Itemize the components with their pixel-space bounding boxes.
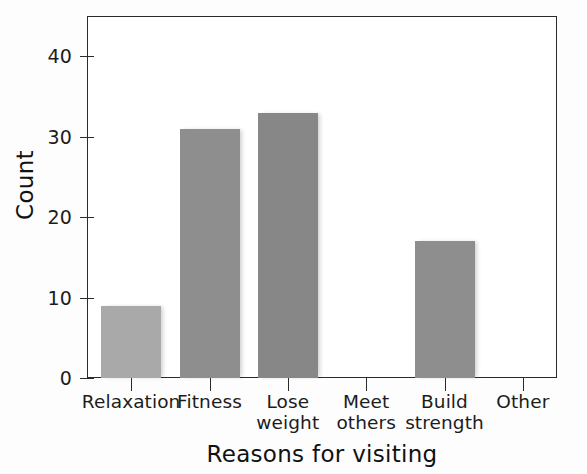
y-axis-tick — [80, 378, 94, 379]
chart-figure: Count 010203040 RelaxationFitnessLosewei… — [0, 0, 587, 474]
y-axis-tick-label: 20 — [28, 206, 72, 228]
x-axis-tick — [523, 378, 524, 391]
x-axis-tick — [131, 378, 132, 391]
y-axis-tick-label: 0 — [28, 367, 72, 389]
bar — [258, 113, 318, 378]
bar — [180, 129, 240, 378]
bar — [415, 241, 475, 378]
bar — [101, 306, 161, 378]
x-axis-category-label: Other — [468, 391, 578, 412]
x-axis-category-label-line1: Build — [421, 391, 468, 412]
x-axis-title: Reasons for visiting — [87, 441, 557, 467]
x-axis-category-label-line1: Lose — [266, 391, 309, 412]
y-axis-tick-label: 40 — [28, 45, 72, 67]
x-axis-category-label-line1: Other — [496, 391, 549, 412]
x-axis-tick — [210, 378, 211, 391]
x-axis-category-label-line2: strength — [390, 412, 500, 433]
x-axis-tick — [366, 378, 367, 391]
bars-layer — [87, 16, 557, 378]
y-axis-tick-label: 30 — [28, 126, 72, 148]
x-axis-tick — [445, 378, 446, 391]
x-axis-category-label-line1: Meet — [343, 391, 389, 412]
y-axis-tick-label: 10 — [28, 287, 72, 309]
x-axis-tick — [288, 378, 289, 391]
